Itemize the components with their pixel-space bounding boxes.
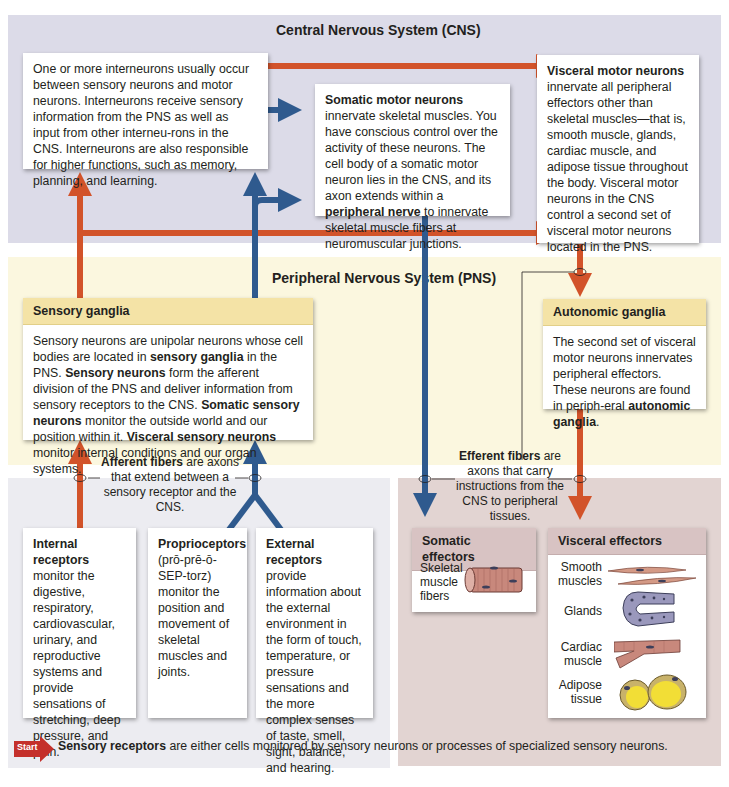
visceral-motor-box: Visceral motor neurons innervate all per… xyxy=(537,55,699,243)
sensory-ganglia-box: Sensory ganglia Sensory neurons are unip… xyxy=(23,298,313,440)
sensory-receptors-term: Sensory receptors xyxy=(58,739,166,753)
proprioceptors-title: Proprioceptors xyxy=(158,537,246,551)
external-receptors-box: External receptors provide information a… xyxy=(256,528,373,718)
sg-bold-2: Sensory neurons xyxy=(65,366,165,380)
visceral-effectors-box: Visceral effectors Smooth muscles Glands… xyxy=(548,528,706,718)
autonomic-ganglia-title: Autonomic ganglia xyxy=(543,299,706,326)
internal-receptors-text: monitor the digestive, respiratory, card… xyxy=(33,569,121,759)
sg-bold-1: sensory ganglia xyxy=(150,350,244,364)
adipose-tissue-icon xyxy=(618,673,688,713)
afferent-fibers-caption: Afferent fibers are axons that extend be… xyxy=(100,455,240,515)
skeletal-muscle-icon xyxy=(464,562,528,598)
sensory-ganglia-title: Sensory ganglia xyxy=(23,298,313,325)
peripheral-nerve-term: peripheral nerve xyxy=(325,205,421,219)
pns-title: Peripheral Nervous System (PNS) xyxy=(272,270,496,286)
visceral-motor-title: Visceral motor neurons xyxy=(547,64,684,78)
start-text: Sensory receptors are either cells monit… xyxy=(58,738,668,754)
internal-receptors-box: Internal receptors monitor the digestive… xyxy=(23,528,136,718)
gland-icon xyxy=(620,590,676,628)
interneurons-text: One or more interneurons usually occur b… xyxy=(23,53,268,197)
cardiac-muscle-label: Cardiac muscle xyxy=(552,640,602,668)
somatic-motor-text: innervate skeletal muscles. You have con… xyxy=(325,109,498,203)
proprioceptors-text: (prō-prē-ō-SEP-torz) monitor the positio… xyxy=(158,553,229,679)
cardiac-muscle-icon xyxy=(614,638,684,670)
smooth-muscle-icon xyxy=(608,564,698,588)
visceral-effectors-title: Visceral effectors xyxy=(548,528,706,555)
efferent-term: Efferent fibers xyxy=(459,449,540,463)
somatic-effectors-box: Somatic effectors Skeletal muscle fibers xyxy=(412,528,536,612)
internal-receptors-title: Internal receptors xyxy=(33,537,89,567)
smooth-muscle-label: Smooth muscles xyxy=(552,560,602,588)
somatic-motor-title: Somatic motor neurons xyxy=(325,93,463,107)
sensory-receptors-text: are either cells monitored by sensory ne… xyxy=(166,739,668,753)
sg-bold-4: Visceral sensory neurons xyxy=(127,430,276,444)
proprioceptors-box: Proprioceptors (prō-prē-ō-SEP-torz) moni… xyxy=(148,528,247,718)
afferent-term: Afferent fibers xyxy=(101,455,183,469)
efferent-fibers-caption: Efferent fibers are axons that carry ins… xyxy=(455,449,565,524)
autonomic-ganglia-box: Autonomic ganglia The second set of visc… xyxy=(543,299,706,409)
adipose-tissue-label: Adipose tissue xyxy=(552,678,602,706)
somatic-motor-box: Somatic motor neurons innervate skeletal… xyxy=(315,84,510,216)
glands-label: Glands xyxy=(552,604,602,618)
ag-period: . xyxy=(596,415,599,429)
visceral-motor-text: innervate all peripheral effectors other… xyxy=(547,80,688,254)
cns-title: Central Nervous System (CNS) xyxy=(276,22,481,38)
start-badge-label: Start xyxy=(17,742,38,752)
external-receptors-title: External receptors xyxy=(266,537,322,567)
skeletal-muscle-label: Skeletal muscle fibers xyxy=(420,561,462,603)
interneurons-box: One or more interneurons usually occur b… xyxy=(23,53,268,169)
